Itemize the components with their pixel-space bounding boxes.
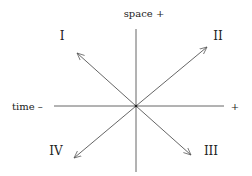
quadrant-label-II: II [213,29,223,43]
time-axis-right-label: + [231,101,239,112]
time-axis-left-label: time – [12,101,43,112]
arrow-quadrant-IV [74,106,136,158]
arrow-quadrant-III [136,106,191,155]
space-axis-label: space + [124,8,165,19]
origin-point [135,105,138,108]
quadrant-label-IV: IV [49,144,63,158]
quadrant-label-I: I [60,29,65,43]
arrow-quadrant-I [77,53,136,106]
quadrant-label-III: III [204,144,218,158]
arrow-quadrant-II [136,47,207,106]
quadrant-diagram: space + time – + I II III IV [0,0,252,176]
